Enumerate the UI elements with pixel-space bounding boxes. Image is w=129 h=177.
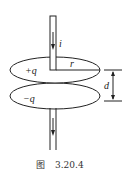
separation-label: d [104,81,109,91]
top-charge-label: +q [25,66,37,76]
caption-prefix: 图 [36,160,45,170]
separation-arrowhead-up-icon [111,71,115,76]
capacitor-diagram [0,0,129,177]
separation-arrowhead-down-icon [111,95,115,100]
bottom-arrowhead-icon [51,130,55,136]
radius-label: r [70,59,74,69]
caption-number: 3.20.4 [55,160,84,170]
bottom-charge-label: −q [23,94,35,104]
figure-caption: 图3.20.4 [36,161,84,170]
current-label: i [59,39,62,49]
